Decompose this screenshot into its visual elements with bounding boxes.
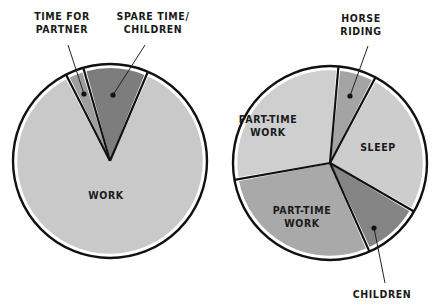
slice-label: HORSERIDING <box>340 12 381 37</box>
slice-label: TIME FORPARTNER <box>34 10 90 35</box>
slice-label: CHILDREN <box>353 288 412 300</box>
callout-dot <box>371 225 376 230</box>
slice-label: WORK <box>88 189 124 201</box>
slice-label: SPARE TIME/CHILDREN <box>117 10 190 35</box>
pie-charts-figure: WORKTIME FORPARTNERSPARE TIME/CHILDRENHO… <box>0 0 435 306</box>
callout-dot <box>81 91 86 96</box>
right-pie: HORSERIDINGSLEEPCHILDRENPART-TIMEWORKPAR… <box>233 12 427 300</box>
chart-canvas: WORKTIME FORPARTNERSPARE TIME/CHILDRENHO… <box>0 0 435 306</box>
slice-label: SLEEP <box>360 141 396 153</box>
callout-dot <box>110 92 115 97</box>
left-pie: WORKTIME FORPARTNERSPARE TIME/CHILDREN <box>13 10 207 258</box>
callout-dot <box>347 93 352 98</box>
